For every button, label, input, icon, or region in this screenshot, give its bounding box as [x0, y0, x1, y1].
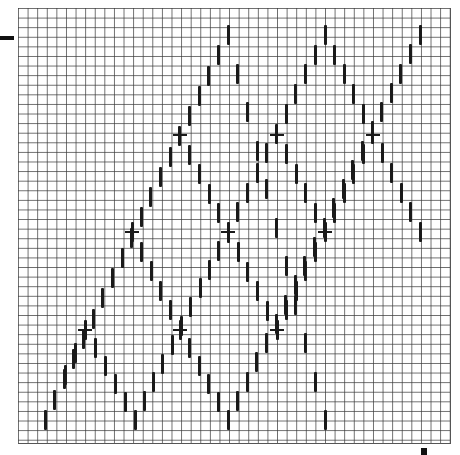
dash-mark — [198, 356, 201, 376]
dash-mark — [304, 333, 307, 353]
dash-mark — [217, 45, 220, 65]
dash-mark — [352, 164, 355, 184]
crossing-mark — [221, 231, 235, 233]
dash-mark — [171, 335, 174, 355]
dash-mark — [124, 392, 127, 412]
dash-mark — [53, 390, 56, 410]
dash-mark — [285, 104, 288, 124]
dash-mark — [150, 261, 153, 281]
dash-mark — [362, 144, 365, 164]
dash-mark — [208, 260, 211, 280]
dash-mark — [217, 203, 220, 223]
dash-mark — [266, 301, 269, 321]
dash-mark — [343, 183, 346, 203]
dash-mark — [381, 143, 384, 163]
dash-mark — [314, 203, 317, 223]
dash-mark — [265, 333, 268, 353]
dash-mark — [236, 391, 239, 411]
dash-mark — [208, 184, 211, 204]
dash-mark — [380, 102, 383, 122]
dash-mark — [295, 164, 298, 184]
dash-mark — [237, 242, 240, 262]
dash-mark — [419, 222, 422, 242]
dash-mark — [188, 106, 191, 126]
dash-mark — [134, 410, 137, 430]
dash-mark — [333, 203, 336, 223]
dash-mark — [304, 183, 307, 203]
dash-mark — [188, 338, 191, 358]
graph-paper-grid — [18, 8, 451, 444]
crossing-mark — [366, 134, 380, 136]
dash-mark — [188, 145, 191, 165]
crossing-mark — [270, 134, 284, 136]
left-tick-mark — [0, 36, 14, 40]
dash-mark — [207, 66, 210, 86]
dash-mark — [399, 64, 402, 84]
dash-mark — [265, 179, 268, 199]
crossing-mark — [173, 134, 187, 136]
dash-mark — [333, 45, 336, 65]
crossing-mark — [173, 329, 187, 331]
dash-mark — [227, 25, 230, 45]
dash-mark — [352, 84, 355, 104]
dash-mark — [161, 354, 164, 374]
dash-mark — [178, 126, 181, 146]
dash-mark — [111, 268, 114, 288]
dash-mark — [101, 288, 104, 308]
dash-mark — [409, 44, 412, 64]
dash-mark — [285, 144, 288, 164]
dash-mark — [227, 410, 230, 430]
dash-mark — [295, 281, 298, 301]
dash-mark — [409, 202, 412, 222]
dash-mark — [275, 218, 278, 238]
dash-mark — [121, 248, 124, 268]
dash-mark — [236, 202, 239, 222]
dash-mark — [324, 410, 327, 430]
dash-mark — [189, 297, 192, 317]
dash-mark — [246, 102, 249, 122]
dash-mark — [198, 86, 201, 106]
dash-mark — [371, 121, 374, 141]
dash-mark — [324, 25, 327, 45]
dash-mark — [246, 262, 249, 282]
crossing-mark — [318, 231, 332, 233]
dash-mark — [217, 392, 220, 412]
dash-mark — [256, 141, 259, 161]
dash-mark — [236, 64, 239, 84]
dash-mark — [74, 343, 77, 363]
dash-mark — [400, 183, 403, 203]
dash-mark — [159, 167, 162, 187]
dash-mark — [207, 374, 210, 394]
dash-mark — [390, 163, 393, 183]
dash-mark — [304, 64, 307, 84]
dash-mark — [314, 45, 317, 65]
dash-mark — [217, 241, 220, 261]
dash-mark — [64, 365, 67, 385]
dash-mark — [149, 187, 152, 207]
crossing-mark — [270, 329, 284, 331]
dash-mark — [362, 104, 365, 124]
dash-mark — [199, 278, 202, 298]
dash-mark — [44, 410, 47, 430]
dash-mark — [159, 281, 162, 301]
dash-mark — [169, 147, 172, 167]
crossing-mark — [125, 231, 139, 233]
dash-mark — [343, 64, 346, 84]
dash-mark — [140, 207, 143, 227]
dash-mark — [114, 374, 117, 394]
dash-mark — [94, 338, 97, 358]
dash-mark — [255, 352, 258, 372]
dash-mark — [143, 391, 146, 411]
dash-mark — [314, 242, 317, 262]
dash-mark — [314, 372, 317, 392]
dash-mark — [246, 372, 249, 392]
dash-mark — [92, 309, 95, 329]
bottom-right-mark — [421, 448, 427, 455]
crossing-mark — [78, 329, 92, 331]
dash-mark — [246, 183, 249, 203]
dash-mark — [256, 281, 259, 301]
dash-mark — [304, 261, 307, 281]
dash-mark — [198, 164, 201, 184]
dash-mark — [390, 83, 393, 103]
dash-mark — [294, 84, 297, 104]
